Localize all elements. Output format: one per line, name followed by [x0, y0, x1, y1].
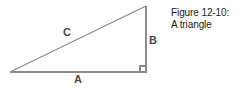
triangle-label-c: C — [63, 27, 71, 38]
triangle-side-c — [10, 6, 146, 72]
figure-caption: Figure 12-10: A triangle — [171, 7, 245, 31]
triangle-diagram — [0, 0, 165, 88]
triangle-label-b: B — [149, 35, 157, 46]
figure-container: C B A Figure 12-10: A triangle — [0, 0, 245, 88]
triangle-label-a: A — [74, 74, 82, 85]
figure-caption-title: A triangle — [171, 19, 245, 31]
figure-caption-number: Figure 12-10: — [171, 7, 245, 19]
right-angle-marker-icon — [140, 66, 146, 72]
